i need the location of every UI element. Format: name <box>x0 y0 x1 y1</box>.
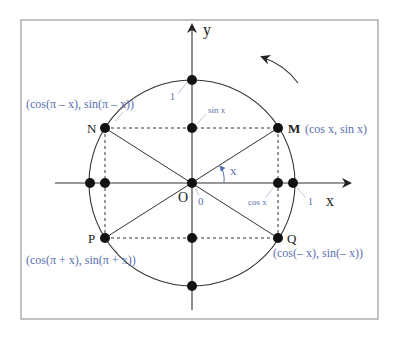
origin-label: O <box>178 190 188 205</box>
y-one-label: 1 <box>170 91 175 102</box>
angle-x-label: x <box>230 163 237 178</box>
point-m-name: M <box>288 121 300 136</box>
x-axis-label: x <box>326 192 334 209</box>
point-neg-cos-x <box>100 178 110 188</box>
point-p <box>100 233 110 243</box>
unit-circle-diagram: y x O 0 1 sin x cos x 1 x M N P Q (cos x… <box>0 0 396 337</box>
cos-x-label: cos x <box>248 197 267 207</box>
point-q <box>273 233 283 243</box>
point-y-neg-one <box>187 281 197 291</box>
point-x-neg-one <box>85 178 95 188</box>
zero-label: 0 <box>198 195 204 207</box>
diagram-frame <box>21 20 378 319</box>
x-one-label: 1 <box>308 196 313 207</box>
sin-x-label: sin x <box>208 105 226 115</box>
point-origin <box>187 178 197 188</box>
point-n <box>100 123 110 133</box>
point-p-coords: (cos(π + x), sin(π + x)) <box>26 253 136 267</box>
point-q-name: Q <box>287 231 297 246</box>
point-y-one <box>187 75 197 85</box>
point-p-name: P <box>88 231 95 246</box>
point-n-coords: (cos(π – x), sin(π – x)) <box>26 97 134 111</box>
point-cos-x <box>273 178 283 188</box>
point-n-name: N <box>87 121 97 136</box>
point-sin-x <box>187 123 197 133</box>
point-x-one <box>288 178 298 188</box>
point-m-coords: (cos x, sin x) <box>305 122 367 136</box>
point-q-coords: (cos(– x), sin(– x)) <box>273 246 363 260</box>
point-neg-sin-x <box>187 233 197 243</box>
angle-arc-icon <box>220 166 224 183</box>
rotation-arrow-icon <box>262 57 298 83</box>
y-axis-label: y <box>203 21 211 39</box>
point-m <box>273 123 283 133</box>
